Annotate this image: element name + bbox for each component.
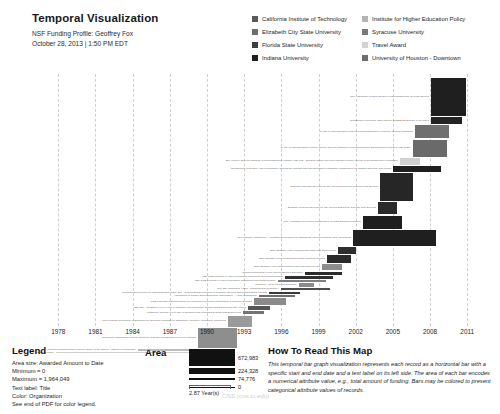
bar-label: NMI Program Assessment: A Trustable Envi… bbox=[36, 237, 351, 239]
bar-row: MRI: Acquisition of Data Intensive Cyber… bbox=[0, 78, 500, 116]
chart-bar[interactable] bbox=[259, 295, 295, 297]
color-swatch bbox=[252, 29, 258, 35]
bar-label: Advanced Technology of the Internet Scie… bbox=[36, 272, 303, 274]
bar-row: MRI: Acquisition of Physical Infrastruct… bbox=[0, 216, 500, 229]
area-size-value: 672,983 bbox=[238, 355, 258, 361]
bar-row: Applications of Parallel Supercomputing … bbox=[0, 295, 500, 297]
page-title: Temporal Visualization bbox=[32, 12, 242, 24]
chart-bar[interactable] bbox=[415, 125, 448, 138]
bar-label: CI-TEAM Implementation Project: Minority… bbox=[36, 147, 411, 149]
chart-bar[interactable] bbox=[299, 283, 314, 287]
chart-bar[interactable] bbox=[254, 298, 286, 305]
bar-label: Incoming: A New Model for Education bbox=[36, 284, 297, 286]
chart-bar[interactable] bbox=[353, 230, 436, 246]
chart-bar[interactable] bbox=[393, 166, 441, 172]
bar-label: Collaborative Research: High Performance… bbox=[36, 168, 391, 170]
x-axis-tick: 1990 bbox=[200, 328, 214, 335]
bar-row: CI-TEAM Implementation Project: Cyberinf… bbox=[0, 125, 500, 138]
bar-row: Research Experiences for Undergraduates … bbox=[0, 292, 500, 294]
color-swatch bbox=[362, 16, 368, 22]
how-to-read-text: This temporal bar graph visualization re… bbox=[268, 360, 494, 395]
chart-bar[interactable] bbox=[363, 216, 401, 229]
bar-row: Easy-Scalable HPMI Programming Model and… bbox=[0, 264, 500, 270]
header: Temporal Visualization NSF Funding Profi… bbox=[32, 12, 242, 49]
bar-label: Semantic Grid/Web Services for CS: Inter… bbox=[36, 207, 376, 209]
bar-label: Semantic Grid/Web Services for CS: Inter… bbox=[36, 186, 378, 188]
bar-label: Parametric Centers in PVL Site in Condit… bbox=[36, 312, 241, 314]
color-swatch bbox=[252, 55, 258, 61]
bar-row: Easy-Scalable HPMI Programming Model and… bbox=[0, 255, 500, 263]
bar-label: Easy-Scalable HPMI Programming Model and… bbox=[36, 266, 320, 268]
color-legend-label: Elizabeth City State University bbox=[262, 29, 341, 35]
chart-bar[interactable] bbox=[305, 272, 342, 275]
bar-row: REU Site - CC Edition on PVL Unit in Com… bbox=[0, 306, 500, 310]
color-swatch bbox=[252, 42, 258, 48]
color-swatch bbox=[362, 42, 368, 48]
temporal-bar-chart: MRI: Acquisition of Data Intensive Cyber… bbox=[0, 74, 500, 326]
x-axis-tick: 2005 bbox=[386, 328, 400, 335]
bar-label: CI-TEAM Implementation Project: Cyberinf… bbox=[36, 131, 413, 133]
chart-bar[interactable] bbox=[269, 292, 300, 294]
chart-bar[interactable] bbox=[380, 173, 412, 201]
bar-label: NSF CISE Program in High Performance Com… bbox=[36, 276, 283, 278]
x-axis-tick: 1984 bbox=[126, 328, 140, 335]
chart-bar[interactable] bbox=[285, 276, 333, 279]
chart-bar[interactable] bbox=[278, 280, 326, 282]
chart-bar[interactable] bbox=[378, 202, 397, 214]
bar-row: Semantic Grid/Web Services for CS: Inter… bbox=[0, 173, 500, 201]
bar-label: Applications of Parallel Supercomputing … bbox=[36, 295, 257, 297]
color-legend-item: Indiana University bbox=[252, 52, 362, 65]
area-block: Area 672,983224,32874,7760 2.87 Year(s) bbox=[145, 347, 260, 358]
color-legend-item: Florida State University bbox=[252, 38, 362, 51]
color-legend-label: Indiana University bbox=[262, 55, 309, 61]
legend-line: See end of PDF for color legend. bbox=[12, 400, 142, 408]
chart-bar[interactable] bbox=[228, 316, 252, 327]
legend-line: Maximum = 1,964,049 bbox=[12, 375, 142, 383]
funding-profile-line: NSF Funding Profile: Geoffrey Fox bbox=[32, 29, 242, 39]
chart-bar[interactable] bbox=[248, 306, 270, 310]
chart-bar[interactable] bbox=[413, 140, 448, 157]
legend-lines: Area size: Awarded Amount to DateMinimum… bbox=[12, 359, 142, 408]
chart-bar[interactable] bbox=[243, 311, 264, 314]
header-subtitle: NSF Funding Profile: Geoffrey Fox Octobe… bbox=[32, 29, 242, 49]
bar-label: A New Program Technology in Education fo… bbox=[36, 320, 226, 322]
color-swatch bbox=[252, 16, 258, 22]
area-size-chips: 672,983224,32874,7760 bbox=[189, 349, 261, 390]
area-size-chip bbox=[189, 378, 235, 380]
chart-bar[interactable] bbox=[322, 264, 342, 270]
bar-label: RUI: Site Computing Award - Computationa… bbox=[36, 288, 279, 290]
color-legend-label: Syracuse University bbox=[372, 29, 424, 35]
watermark: CNS (cns.iu.edu) bbox=[222, 392, 269, 399]
area-chip-row: 74,776 bbox=[189, 376, 261, 382]
bar-label: MRI: Acquisition of Data Intensive Cyber… bbox=[36, 96, 429, 98]
bar-row: RUI: Site Computing Award - Computationa… bbox=[0, 288, 500, 290]
color-legend-label: Florida State University bbox=[262, 42, 323, 48]
x-axis-tick: 1987 bbox=[163, 328, 177, 335]
area-size-value: 224,328 bbox=[238, 368, 258, 374]
chart-bar[interactable] bbox=[338, 247, 355, 254]
x-axis-tick: 2002 bbox=[349, 328, 363, 335]
color-legend-label: University of Houston - Downtown bbox=[372, 55, 461, 61]
color-legend-item: University of Houston - Downtown bbox=[362, 52, 496, 65]
chart-bars: MRI: Acquisition of Data Intensive Cyber… bbox=[0, 74, 500, 326]
x-axis: 1978198119841987199019931996199920022005… bbox=[0, 328, 500, 340]
x-axis-tick: 1981 bbox=[88, 328, 102, 335]
bar-label: REU Site - CC Edition on PVL Unit in Com… bbox=[36, 307, 246, 309]
area-size-chip bbox=[189, 368, 235, 374]
color-legend-item: Syracuse University bbox=[362, 25, 496, 38]
area-size-value: 74,776 bbox=[238, 376, 255, 382]
chart-bar[interactable] bbox=[431, 117, 462, 124]
bar-row: CISE Research Instrumentation on a Progr… bbox=[0, 298, 500, 305]
bar-label: Collaborative Research: Open Source SciD… bbox=[36, 119, 429, 121]
x-axis-tick: 1993 bbox=[237, 328, 251, 335]
chart-bar[interactable] bbox=[431, 78, 466, 116]
area-scale-bracket bbox=[189, 385, 231, 389]
chart-bar[interactable] bbox=[327, 255, 351, 263]
chart-bar[interactable] bbox=[281, 288, 329, 290]
chart-bar[interactable] bbox=[400, 158, 420, 165]
legend-block: Legend Area size: Awarded Amount to Date… bbox=[12, 345, 142, 408]
legend-line: Text label: Title bbox=[12, 384, 142, 392]
color-legend-item: Travel Award bbox=[362, 38, 496, 51]
bar-row: Collaborative Research: Open Source SciD… bbox=[0, 117, 500, 124]
x-axis-tick: 1978 bbox=[51, 328, 65, 335]
